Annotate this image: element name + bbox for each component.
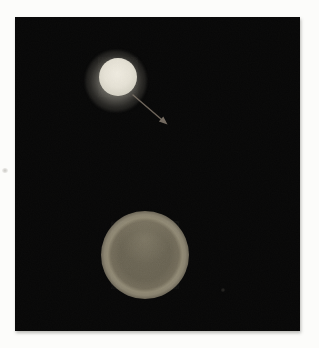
faint-speck [221, 288, 225, 292]
scanned-photo-page [0, 0, 319, 348]
bright-sphere-core [99, 58, 137, 96]
dim-ring-sphere [101, 211, 189, 299]
margin-smudge [2, 168, 8, 173]
photo-frame [15, 17, 300, 331]
